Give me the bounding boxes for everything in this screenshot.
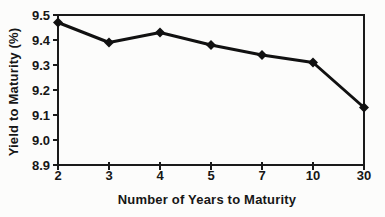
x-tick-label: 3 [105,168,112,183]
y-axis-title: Yield to Maturity (%) [6,28,21,157]
x-tick-label: 10 [306,168,320,183]
x-tick-label: 30 [357,168,371,183]
y-tick-label: 9.2 [32,83,50,98]
x-tick-label: 4 [156,168,164,183]
y-tick-label: 9.0 [32,133,50,148]
data-point-marker [257,50,267,60]
data-point-marker [206,40,216,50]
x-tick-label: 2 [54,168,61,183]
data-point-marker [155,28,165,38]
y-tick-label: 9.5 [32,8,50,23]
y-tick-label: 9.4 [32,33,51,48]
plot-frame [58,15,364,165]
y-tick-label: 9.3 [32,58,50,73]
series-line [58,23,364,108]
x-tick-label: 5 [207,168,214,183]
plot-area: 8.99.09.19.29.39.49.5234571030 [0,0,385,217]
x-axis-title: Number of Years to Maturity [118,192,297,207]
y-tick-label: 9.1 [32,108,50,123]
y-tick-label: 8.9 [32,158,50,173]
yield-curve-chart: 8.99.09.19.29.39.49.5234571030 Yield to … [0,0,385,217]
data-point-marker [104,38,114,48]
data-point-marker [53,18,63,28]
x-tick-label: 7 [258,168,265,183]
